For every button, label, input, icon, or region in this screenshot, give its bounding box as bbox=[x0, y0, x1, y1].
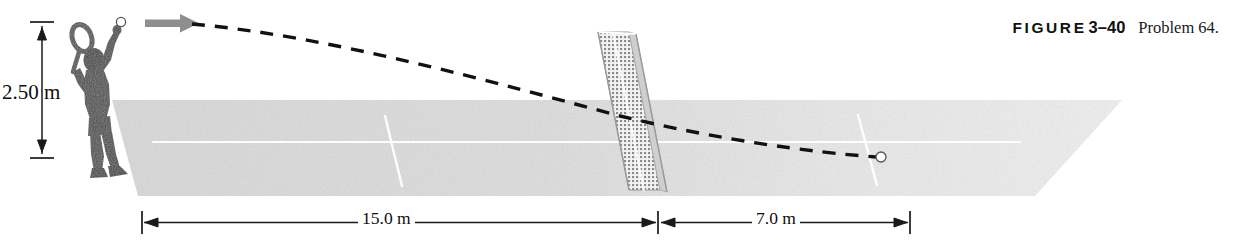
ball-at-landing bbox=[876, 152, 886, 162]
height-dimension-label: 2.50 m bbox=[2, 80, 60, 105]
initial-velocity-arrow bbox=[145, 14, 199, 33]
tennis-player-silhouette bbox=[68, 22, 128, 178]
figure-caption-label: FIGURE bbox=[1012, 19, 1086, 36]
figure-caption: FIGURE3–40Problem 64. bbox=[1012, 18, 1219, 38]
figure-container: 2.50 m 15.0 m 7.0 m FIGURE3–40Problem 64… bbox=[0, 0, 1233, 252]
figure-caption-text: Problem 64. bbox=[1138, 18, 1219, 37]
distance-to-net-label: 15.0 m bbox=[358, 208, 415, 229]
ball-at-serve bbox=[116, 17, 125, 26]
figure-caption-number: 3–40 bbox=[1089, 18, 1126, 36]
distance-past-net-label: 7.0 m bbox=[752, 208, 800, 229]
